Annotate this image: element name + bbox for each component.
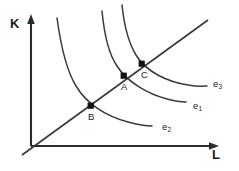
curve-label-e1-base: e [193, 100, 198, 111]
point-label-b: B [88, 112, 94, 122]
l-axis-label: L [212, 148, 220, 161]
point-label-c: C [141, 70, 148, 80]
point-marker-b [88, 103, 94, 109]
point-marker-c [139, 61, 145, 67]
curve-label-e2: e2 [162, 122, 171, 132]
curve-label-e1-subscript: 1 [199, 105, 203, 112]
k-axis-label: K [10, 17, 19, 30]
point-label-a: A [121, 82, 127, 92]
expansion-path-ray [22, 20, 208, 155]
curve-label-e2-base: e [162, 121, 167, 132]
curve-label-e1: e1 [193, 101, 202, 111]
k-axis-arrow-icon [27, 14, 35, 24]
isoquant-diagram: K L A B C e1 e2 e3 [0, 0, 239, 171]
curve-label-e2-subscript: 2 [168, 126, 172, 133]
curve-label-e3-base: e [213, 78, 218, 89]
diagram-canvas [0, 0, 239, 171]
curve-label-e3-subscript: 3 [219, 83, 223, 90]
curve-label-e3: e3 [213, 79, 222, 89]
point-marker-a [121, 73, 127, 79]
